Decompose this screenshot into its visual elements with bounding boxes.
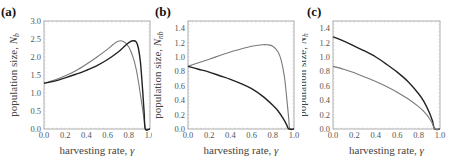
curve-gray	[333, 66, 440, 129]
y-tick-label: 1.2	[174, 38, 185, 48]
y-tick-label: 0.4	[319, 95, 330, 105]
y-axis-label: population size, Nb	[7, 33, 21, 117]
x-tick-label: 0.6	[246, 130, 257, 140]
y-tick-label: 1.2	[319, 38, 330, 48]
plot-frame	[44, 21, 150, 129]
x-tick-label: 0.2	[349, 130, 360, 140]
panel-a: (a) 0.00.20.40.60.81.00.00.51.01.52.02.5…	[0, 0, 152, 158]
x-tick-label: 0.6	[102, 130, 113, 140]
y-tick-label: 0.2	[319, 110, 330, 120]
x-tick-label: 0.2	[204, 130, 215, 140]
x-axis-label: harvesting rate, γ	[60, 144, 136, 156]
panel-b: (b) 0.00.20.40.60.81.00.00.20.40.60.81.0…	[150, 0, 302, 158]
y-tick-label: 2.0	[30, 52, 41, 62]
y-tick-label: 3.0	[30, 16, 41, 26]
y-tick-label: 1.0	[30, 88, 41, 98]
chart-b: 0.00.20.40.60.81.00.00.20.40.60.81.01.21…	[150, 0, 302, 158]
curve-black	[333, 37, 440, 130]
x-tick-label: 0.8	[413, 130, 424, 140]
x-tick-label: 1.0	[435, 130, 446, 140]
y-tick-label: 0.5	[30, 106, 41, 116]
y-axis-label: population size, Nnb	[151, 31, 165, 119]
y-tick-label: 0.6	[174, 81, 185, 91]
y-tick-label: 1.5	[30, 70, 41, 80]
x-axis-label: harvesting rate, γ	[349, 144, 425, 156]
y-tick-label: 2.5	[30, 34, 41, 44]
curve-black	[44, 41, 150, 130]
panel-c: (c) 0.00.20.40.60.81.00.00.20.40.60.81.0…	[302, 0, 457, 158]
x-tick-label: 0.4	[225, 130, 236, 140]
minor-ticks	[188, 21, 294, 129]
minor-ticks	[333, 21, 440, 129]
y-tick-label: 1.4	[319, 23, 330, 33]
y-tick-label: 0.6	[319, 81, 330, 91]
chart-c: 0.00.20.40.60.81.00.00.20.40.60.81.01.21…	[302, 0, 457, 158]
plot-frame	[333, 21, 440, 129]
curve-gray	[188, 45, 294, 130]
y-tick-label: 1.0	[174, 52, 185, 62]
y-tick-label: 0.8	[174, 66, 185, 76]
y-axis-label: population size, Nh	[302, 33, 310, 117]
minor-ticks	[44, 21, 150, 129]
curve-gray	[44, 41, 150, 130]
y-tick-label: 0.0	[319, 124, 330, 134]
x-tick-label: 0.4	[81, 130, 92, 140]
x-tick-label: 1.0	[289, 130, 300, 140]
y-tick-label: 0.8	[319, 66, 330, 76]
y-tick-label: 0.4	[174, 95, 185, 105]
y-tick-label: 0.2	[174, 110, 185, 120]
y-tick-label: 0.0	[30, 124, 41, 134]
x-tick-label: 0.8	[267, 130, 278, 140]
x-tick-label: 0.6	[392, 130, 403, 140]
y-tick-label: 1.4	[174, 23, 185, 33]
plot-frame	[188, 21, 294, 129]
y-tick-label: 1.0	[319, 52, 330, 62]
x-tick-label: 0.2	[60, 130, 71, 140]
x-tick-label: 0.4	[370, 130, 381, 140]
chart-a: 0.00.20.40.60.81.00.00.51.01.52.02.53.0h…	[0, 0, 152, 158]
x-tick-label: 0.8	[123, 130, 134, 140]
x-axis-label: harvesting rate, γ	[204, 144, 280, 156]
y-tick-label: 0.0	[174, 124, 185, 134]
curve-black	[188, 66, 294, 129]
